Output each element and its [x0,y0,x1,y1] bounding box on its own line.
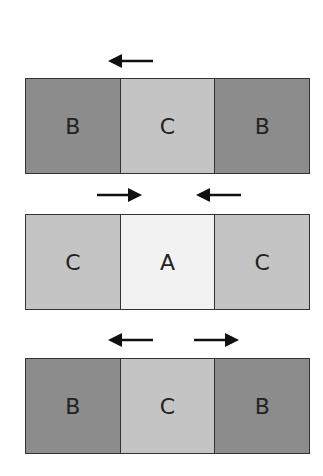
cell-c: C [26,215,120,309]
arrow-left-icon [108,333,154,347]
row-2: C A C [25,214,310,310]
cell-a: A [120,215,215,309]
cell-b: B [26,359,120,453]
cell-b: B [214,79,309,173]
arrow-left-icon [108,54,154,68]
row-3: B C B [25,358,310,454]
arrow-right-icon [97,188,143,202]
arrow-left-icon [196,188,242,202]
cell-c: C [214,215,309,309]
cell-b: B [214,359,309,453]
row-1: B C B [25,78,310,174]
cell-b: B [26,79,120,173]
cell-c: C [120,359,215,453]
cell-c: C [120,79,215,173]
arrow-right-icon [194,333,240,347]
